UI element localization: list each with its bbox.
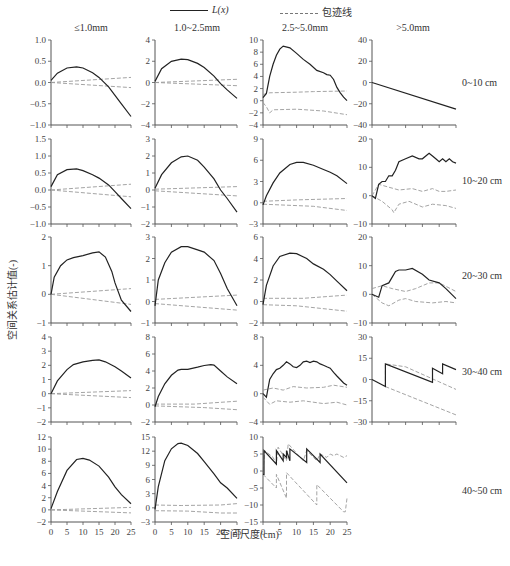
- y-tick-label: −15: [353, 396, 368, 406]
- y-tick-label: 0.5: [35, 56, 47, 66]
- y-tick-label: 0: [42, 289, 47, 299]
- y-tick-label: 2: [42, 232, 47, 242]
- panel-r5-c2: −3036912150510152025: [140, 432, 242, 537]
- envelope-lower: [263, 103, 347, 115]
- y-tick-label: −1.0: [30, 219, 47, 229]
- x-tick-label: 15: [95, 527, 105, 537]
- x-tick-label: 25: [233, 527, 243, 537]
- y-tick-label: 1.0: [35, 35, 47, 45]
- y-tick-label: −10: [353, 219, 368, 229]
- lx-curve: [372, 83, 456, 110]
- envelope-lower: [51, 510, 131, 513]
- panel-r5-c3: −15−10−505100510152025: [244, 432, 352, 537]
- y-tick-label: 8: [254, 332, 259, 342]
- envelope-lower: [155, 406, 237, 410]
- envelope-upper: [51, 77, 131, 82]
- panel-r3-c1: −1012: [36, 232, 131, 328]
- x-tick-label: 15: [309, 527, 319, 537]
- x-tick-label: 25: [343, 527, 353, 537]
- y-tick-label: 4: [254, 360, 259, 370]
- y-tick-label: 1.0: [35, 151, 47, 161]
- panel-r2-c3: −30369: [248, 134, 347, 229]
- envelope-lower: [385, 387, 456, 415]
- y-tick-label: 8: [254, 47, 259, 57]
- lx-curve: [263, 449, 347, 483]
- x-tick-label: 0: [153, 527, 158, 537]
- figure: L(x) 包迹线 ≤1.0mm 1.0~2.5mm 2.5~5.0mm >5.0…: [0, 0, 510, 566]
- lx-curve: [263, 253, 347, 305]
- y-tick-label: 8: [146, 332, 151, 342]
- envelope-upper: [51, 184, 131, 190]
- y-tick-label: −1: [140, 318, 150, 328]
- y-tick-label: 2: [42, 360, 47, 370]
- panel-r1-c2: −4−2024: [140, 35, 237, 130]
- y-tick-label: −2: [36, 417, 46, 427]
- y-tick-label: 9: [254, 134, 259, 144]
- y-tick-label: 2: [146, 56, 151, 66]
- y-tick-label: −4: [140, 120, 150, 130]
- y-tick-label: 0: [254, 198, 259, 208]
- lx-curve: [51, 360, 131, 394]
- y-tick-label: 4: [42, 481, 47, 491]
- x-tick-label: 10: [183, 527, 193, 537]
- envelope-upper: [263, 91, 347, 95]
- panel-r5-c1: −20246810120510152025: [36, 432, 136, 537]
- x-tick-label: 25: [127, 527, 137, 537]
- y-tick-label: 0: [254, 297, 259, 307]
- panel-r4-c3: −4048: [248, 332, 347, 427]
- panel-r3-c2: −10123: [140, 232, 237, 328]
- panel-r2-c1: −1.0−0.50.00.51.01.5: [30, 134, 131, 229]
- y-tick-label: 2: [146, 383, 151, 393]
- y-tick-label: −0.5: [30, 202, 47, 212]
- y-tick-label: −3: [140, 517, 150, 527]
- envelope-upper: [155, 401, 237, 404]
- y-tick-label: 0: [254, 96, 259, 106]
- lx-curve: [263, 162, 347, 205]
- envelope-upper: [51, 507, 131, 510]
- lx-curve: [372, 269, 456, 299]
- envelope-lower: [51, 83, 131, 88]
- y-tick-label: 20: [358, 232, 368, 242]
- envelope-upper: [372, 184, 456, 195]
- x-tick-label: 5: [65, 527, 70, 537]
- y-tick-label: 6: [146, 349, 151, 359]
- y-tick-label: 2: [42, 493, 47, 503]
- y-tick-label: −2: [248, 318, 258, 328]
- panel-r3-c3: −20246: [248, 232, 347, 328]
- y-tick-label: 4: [254, 254, 259, 264]
- y-tick-label: 12: [141, 446, 150, 456]
- y-tick-label: 6: [146, 475, 151, 485]
- y-tick-label: 0.5: [35, 168, 47, 178]
- panel-r1-c4: −40−2002040: [353, 35, 456, 130]
- y-tick-label: 0.0: [35, 78, 47, 88]
- y-tick-label: 20: [358, 134, 368, 144]
- x-tick-label: 0: [261, 527, 266, 537]
- y-tick-label: 0: [254, 389, 259, 399]
- y-tick-label: 0: [146, 78, 151, 88]
- y-tick-label: 0: [42, 505, 47, 515]
- x-tick-label: 5: [169, 527, 174, 537]
- y-tick-label: −1: [140, 202, 150, 212]
- envelope-upper: [263, 295, 347, 298]
- envelope-lower: [372, 294, 456, 306]
- envelope-lower: [155, 304, 237, 311]
- envelope-lower: [155, 83, 237, 86]
- envelope-upper: [155, 504, 237, 506]
- x-tick-label: 20: [326, 527, 336, 537]
- y-tick-label: 2: [146, 254, 151, 264]
- lx-curve: [372, 364, 456, 387]
- y-tick-label: 12: [37, 432, 46, 442]
- panel-r1-c3: −4−20246810: [248, 35, 347, 130]
- y-tick-label: 15: [141, 432, 151, 442]
- envelope-upper: [51, 391, 131, 394]
- envelope-upper: [155, 79, 237, 82]
- y-tick-label: −5: [248, 483, 258, 493]
- y-tick-label: 3: [146, 134, 151, 144]
- y-tick-label: −10: [353, 318, 368, 328]
- y-tick-label: −1: [36, 318, 46, 328]
- y-tick-label: 1: [146, 168, 151, 178]
- envelope-upper: [263, 444, 347, 471]
- y-tick-label: 0: [363, 289, 368, 299]
- y-tick-label: −30: [353, 417, 368, 427]
- panel-r2-c4: −1001020: [353, 134, 456, 229]
